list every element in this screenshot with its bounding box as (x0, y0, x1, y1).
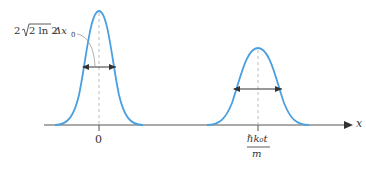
x-axis-arrowhead (344, 121, 353, 129)
tick-label-zero: 0 (95, 133, 102, 146)
width-label-delta-x: Δx (54, 25, 67, 36)
tick-label-denominator: m (252, 148, 261, 159)
width-label-prefix: 2 (14, 25, 20, 36)
tick-label-numerator: ℏk₀t (247, 133, 268, 144)
width-label-subscript: 0 (71, 31, 75, 39)
x-axis-label: x (356, 117, 362, 130)
